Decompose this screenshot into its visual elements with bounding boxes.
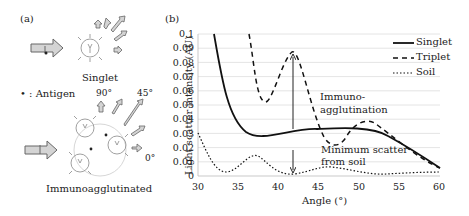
annotation-immuno-line2: agglutination: [320, 104, 388, 115]
antigen-dot-icon: [45, 52, 48, 55]
incident-beam-icon-agglutinated: [25, 141, 57, 159]
y-axis-title: Light scatter intensity (AU): [183, 26, 194, 186]
annotation-soil-line2: from soil: [321, 156, 366, 167]
scatter-arrows-agglutinated-icon: [97, 99, 145, 152]
incident-beam-icon-singlet: [31, 39, 63, 57]
panel-b-label: (b): [165, 13, 179, 24]
annotation-soil-line1: Minimum scatter: [321, 144, 408, 155]
legend-singlet-label: Singlet: [416, 36, 452, 47]
legend-triplet-label: Triplet: [416, 51, 450, 62]
agglutinated-cluster-icon: [69, 116, 128, 176]
x-axis-title: Angle (°): [302, 195, 347, 206]
annotation-immuno-line1: Immuno-: [320, 91, 365, 102]
chart-gridlines: [198, 34, 440, 162]
singlet-particle-icon: [78, 34, 102, 62]
legend-soil-label: Soil: [416, 66, 435, 77]
